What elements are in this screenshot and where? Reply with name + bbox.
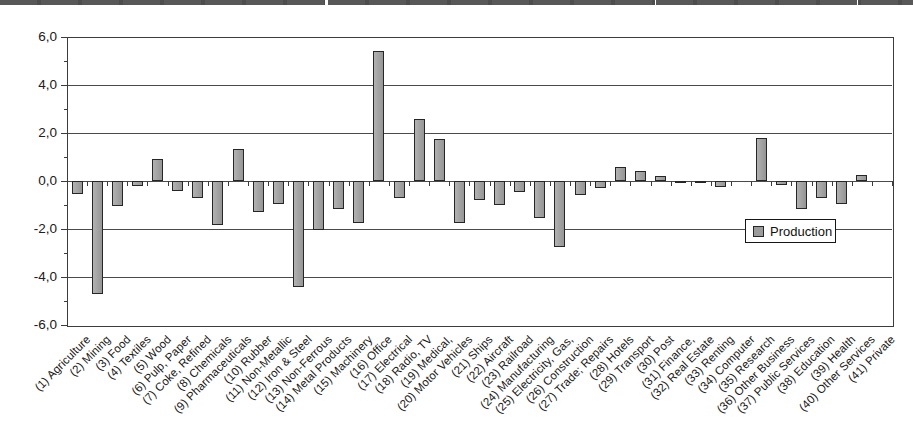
legend-series-marker-icon (753, 226, 764, 237)
y-axis-tick-label: -2,0 (15, 221, 57, 237)
category-axis-tick (107, 181, 108, 186)
y-axis-tick-label: 6,0 (15, 29, 57, 45)
category-axis-tick (570, 181, 571, 186)
y-axis-tick-label: -6,0 (15, 317, 57, 333)
scan-artifact-strip (0, 0, 913, 5)
category-axis-tick (671, 181, 672, 186)
category-axis-tick (67, 181, 68, 186)
category-axis-tick (208, 181, 209, 186)
category-axis-tick (550, 181, 551, 186)
category-axis-tick (147, 181, 148, 186)
y-major-tick (61, 229, 67, 230)
category-axis-tick (449, 181, 450, 186)
category-axis-tick (329, 181, 330, 186)
y-minor-tick (64, 253, 67, 254)
category-axis-tick (510, 181, 511, 186)
y-major-tick (61, 133, 67, 134)
category-axis-tick (168, 181, 169, 186)
category-axis-tick (610, 181, 611, 186)
category-axis-tick (852, 181, 853, 186)
category-axis-tick (791, 181, 792, 186)
category-axis-tick (530, 181, 531, 186)
category-axis-tick (691, 181, 692, 186)
y-axis-tick-label: 2,0 (15, 125, 57, 141)
category-axis-tick (228, 181, 229, 186)
y-major-tick (61, 85, 67, 86)
category-axis-tick (832, 181, 833, 186)
category-axis-tick (268, 181, 269, 186)
category-axis-tick (127, 181, 128, 186)
category-axis-tick (490, 181, 491, 186)
category-axis-tick (288, 181, 289, 186)
y-minor-tick (64, 109, 67, 110)
category-axis-tick (248, 181, 249, 186)
y-axis-tick-label: -4,0 (15, 269, 57, 285)
y-minor-tick (64, 205, 67, 206)
category-axis-tick (87, 181, 88, 186)
category-axis-tick (812, 181, 813, 186)
category-axis-tick (308, 181, 309, 186)
category-axis-tick (651, 181, 652, 186)
legend: Production (745, 219, 836, 243)
plot-frame (67, 37, 894, 327)
y-axis-tick-label: 0,0 (15, 173, 57, 189)
y-major-tick (61, 325, 67, 326)
y-major-tick (61, 277, 67, 278)
category-axis-tick (892, 181, 893, 186)
category-axis-tick (349, 181, 350, 186)
category-axis-tick (771, 181, 772, 186)
category-axis-tick (369, 181, 370, 186)
category-axis-tick (751, 181, 752, 186)
category-axis-tick (188, 181, 189, 186)
category-axis-tick (409, 181, 410, 186)
category-axis-tick (731, 181, 732, 186)
y-minor-tick (64, 61, 67, 62)
category-axis-tick (872, 181, 873, 186)
y-axis-tick-label: 4,0 (15, 77, 57, 93)
y-minor-tick (64, 301, 67, 302)
category-axis-tick (469, 181, 470, 186)
scanned-bar-chart: Production 6,04,02,00,0-2,0-4,0-6,0(1) A… (0, 0, 913, 447)
legend-label: Production (770, 224, 832, 239)
category-axis-tick (711, 181, 712, 186)
category-axis-tick (630, 181, 631, 186)
y-minor-tick (64, 157, 67, 158)
category-axis-tick (389, 181, 390, 186)
category-axis-tick (429, 181, 430, 186)
category-axis-tick (590, 181, 591, 186)
y-major-tick (61, 37, 67, 38)
